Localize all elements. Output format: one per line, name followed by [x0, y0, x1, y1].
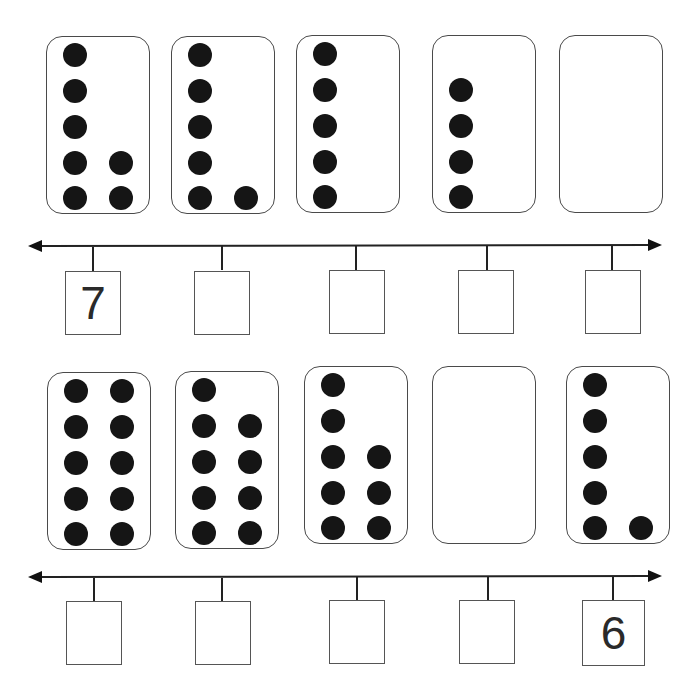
- dot: [313, 185, 337, 209]
- dot: [583, 516, 607, 540]
- dot: [192, 378, 216, 402]
- dot: [583, 409, 607, 433]
- dot: [367, 445, 391, 469]
- dot: [188, 115, 212, 139]
- dot: [64, 415, 88, 439]
- answer-box[interactable]: [195, 601, 251, 665]
- answer-box[interactable]: [458, 270, 514, 334]
- dot: [110, 522, 134, 546]
- dot: [63, 79, 87, 103]
- dot: [64, 487, 88, 511]
- number-line-tick: [356, 577, 358, 601]
- dot: [238, 414, 262, 438]
- dot: [583, 445, 607, 469]
- dot-card: [171, 36, 275, 214]
- answer-box[interactable]: [329, 270, 385, 334]
- dot: [449, 114, 473, 138]
- dot-card: [566, 366, 670, 544]
- dot: [192, 521, 216, 545]
- dot: [109, 151, 133, 175]
- dot: [449, 78, 473, 102]
- dot-card-empty: [559, 35, 663, 213]
- dot-card: [46, 36, 150, 214]
- dot: [64, 522, 88, 546]
- number-line-tick: [93, 578, 95, 602]
- dot: [110, 415, 134, 439]
- answer-box[interactable]: [459, 600, 515, 664]
- dot: [192, 414, 216, 438]
- dot: [63, 186, 87, 210]
- dot: [188, 151, 212, 175]
- dot-card: [304, 366, 408, 544]
- dot: [238, 486, 262, 510]
- answer-box[interactable]: [585, 270, 641, 334]
- dot: [629, 516, 653, 540]
- dot: [63, 115, 87, 139]
- number-line-tick: [221, 578, 223, 602]
- dot: [188, 79, 212, 103]
- dot: [188, 43, 212, 67]
- dot-card: [47, 372, 151, 550]
- dot: [449, 185, 473, 209]
- answer-box[interactable]: [194, 271, 250, 335]
- dot: [188, 186, 212, 210]
- dot: [313, 150, 337, 174]
- dot: [110, 487, 134, 511]
- dot: [321, 445, 345, 469]
- dot-card: [432, 35, 536, 213]
- dot: [64, 379, 88, 403]
- dot: [367, 516, 391, 540]
- answer-box[interactable]: 6: [582, 600, 645, 666]
- dot: [321, 516, 345, 540]
- dot: [449, 150, 473, 174]
- number-line-tick: [92, 247, 94, 271]
- number-line-tick: [221, 246, 223, 270]
- answer-box[interactable]: [329, 600, 385, 664]
- dot: [367, 481, 391, 505]
- dot: [321, 481, 345, 505]
- dot-card: [175, 371, 279, 549]
- dot: [63, 151, 87, 175]
- dot: [313, 42, 337, 66]
- dot: [110, 379, 134, 403]
- dot: [321, 409, 345, 433]
- dot: [192, 486, 216, 510]
- dot: [313, 78, 337, 102]
- dot: [583, 373, 607, 397]
- answer-box[interactable]: [66, 601, 122, 665]
- dot: [321, 373, 345, 397]
- number-line-tick: [611, 246, 613, 270]
- dot: [192, 450, 216, 474]
- number-line-tick: [612, 577, 614, 601]
- dot: [313, 114, 337, 138]
- dot: [64, 451, 88, 475]
- dot-card: [296, 35, 400, 213]
- number-line-tick: [355, 246, 357, 270]
- number-line-tick: [487, 577, 489, 601]
- dot: [583, 481, 607, 505]
- dot: [238, 450, 262, 474]
- dot: [63, 43, 87, 67]
- answer-box[interactable]: 7: [65, 271, 121, 335]
- dot-card-empty: [432, 366, 536, 544]
- dot: [109, 186, 133, 210]
- number-line-tick: [486, 246, 488, 270]
- dot: [238, 521, 262, 545]
- dot: [234, 186, 258, 210]
- dot: [110, 451, 134, 475]
